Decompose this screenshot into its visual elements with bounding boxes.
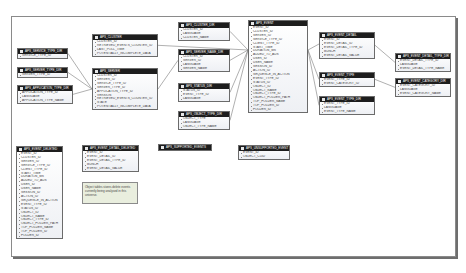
relationship-lines — [0, 0, 466, 273]
relationship-line — [308, 50, 319, 105]
table-icon — [251, 22, 254, 25]
table-icon — [20, 50, 23, 53]
relationship-line — [308, 50, 319, 79]
table-supported-events[interactable]: APS_SUPPORTED_EVENTS — [158, 144, 212, 151]
table-icon — [181, 24, 184, 27]
table-title: APS_UNSUPPORTED_EVENT — [246, 146, 288, 150]
relationship-line — [230, 31, 248, 50]
table-icon — [20, 69, 23, 72]
table-icon — [322, 74, 325, 77]
table-field[interactable]: LANGUAGE — [179, 97, 229, 101]
table-event-detail-type-dir[interactable]: APS_EVENT_DETAIL_TYPE_DIREVENT_DETAIL_TY… — [395, 53, 451, 72]
relationship-line — [158, 60, 178, 89]
table-event[interactable]: APS_EVENTEVENT_IDCLUSTER_IDSERVER_IDSERV… — [248, 20, 308, 113]
table-title: APS_EVENT_DELETED — [24, 147, 57, 151]
table-title: APS_CLUSTER_DIR — [186, 23, 215, 27]
table-icon — [95, 70, 98, 73]
table-title: APS_EVENT_DETAIL — [327, 33, 357, 37]
table-icon — [181, 113, 184, 116]
table-event-type-dir[interactable]: APS_EVENT_TYPE_DIREVENT_TYPE_IDLANGUAGEE… — [319, 96, 375, 115]
table-icon — [241, 147, 244, 150]
table-title: APS_OBJECT_TYPE_DIR — [186, 112, 222, 116]
table-title: APS_CLUSTER — [100, 35, 122, 39]
table-field[interactable]: SERVER_TYPE_ID — [18, 73, 67, 77]
table-title: APS_EVENT_TYPE — [327, 73, 354, 77]
table-title: APS_SERVER_NAME_DIR — [186, 50, 223, 54]
table-icon — [398, 55, 401, 58]
table-title: APS_EVENT — [256, 21, 274, 25]
table-icon — [322, 34, 325, 37]
table-icon — [181, 85, 184, 88]
table-title: APS_SERVER_TYPE_DIR — [25, 68, 61, 72]
table-title: APS_APPLICATION_TYPE_DIR — [25, 86, 69, 90]
table-status[interactable]: APS_STATUS_DIRSTATUS_IDEVENT_TYPE_IDLANG… — [178, 83, 230, 102]
table-field[interactable]: EVENT_CATEGORY_NAME — [396, 92, 450, 96]
table-field[interactable]: EVENT_DETAIL_TYPE_NAME — [396, 67, 450, 71]
relationship-line — [375, 45, 395, 62]
table-server-type[interactable]: APS_SERVER_TYPE_DIRSERVER_TYPE_ID — [17, 67, 68, 78]
table-cluster-dir[interactable]: APS_CLUSTER_DIRCLUSTER_IDLANGUAGECLUSTER… — [178, 22, 230, 41]
table-field[interactable]: CLUSTER_NAME — [179, 36, 229, 40]
table-cluster[interactable]: APS_CLUSTERCLUSTER_IDRETRIEVED_EVENTS_CO… — [92, 34, 158, 57]
table-icon — [161, 146, 164, 149]
table-field[interactable]: OBJECT_TYPE_NAME — [179, 125, 229, 129]
diagram-note: Object tables stores delete events curre… — [82, 182, 138, 204]
table-icon — [85, 147, 88, 150]
table-field[interactable]: POTENTIALLY_INCOMPLETE_DATA — [93, 105, 157, 109]
table-event-type[interactable]: APS_EVENT_TYPEEVENT_TYPE_IDEVENT_CATEGOR… — [319, 72, 375, 87]
table-icon — [20, 87, 23, 90]
relationship-line — [308, 44, 319, 50]
table-server[interactable]: APS_SERVERCLUSTER_IDSERVER_IDSERVICE_TYP… — [92, 68, 158, 110]
table-icon — [95, 36, 98, 39]
table-field[interactable]: EVENT_DETAIL_VALUE — [320, 54, 374, 58]
table-field[interactable]: POTENTIALLY_INCOMPLETE_DATA — [93, 52, 157, 56]
table-field[interactable]: EVENT_CATEGORY_ID — [320, 82, 374, 86]
relationship-line — [230, 50, 248, 60]
table-icon — [181, 51, 184, 54]
table-title: APS_SUPPORTED_EVENTS — [166, 145, 206, 149]
table-field[interactable]: APPLICATION_TYPE_NAME — [18, 99, 72, 103]
table-service-type[interactable]: APS_SERVICE_TYPE_DIRSERVICE_TYPE_ID — [17, 48, 68, 59]
relationship-line — [68, 53, 92, 89]
table-event-detail[interactable]: APS_EVENT_DETAILEVENT_IDEVENT_DETAIL_IDE… — [319, 32, 375, 59]
table-header[interactable]: APS_SUPPORTED_EVENTS — [159, 145, 211, 150]
table-server-name[interactable]: APS_SERVER_NAME_DIRCLUSTER_IDSERVER_IDLA… — [178, 49, 230, 72]
note-text: Object tables stores delete events curre… — [85, 185, 130, 197]
table-event-detail-deleted[interactable]: APS_EVENT_DETAIL_DELETEDEVENT_IDEVENT_DE… — [82, 145, 139, 172]
table-title: APS_EVENT_CATEGORY_DIR — [403, 79, 446, 83]
table-field[interactable]: SERVICE_TYPE_ID — [18, 54, 67, 58]
table-title: APS_EVENT_DETAIL_DELETED — [90, 146, 135, 150]
table-field[interactable]: OBJECT_CUID — [239, 155, 289, 159]
table-field[interactable]: FOLDER_ID — [249, 108, 307, 112]
table-object-type[interactable]: APS_OBJECT_TYPE_DIROBJECT_TYPELANGUAGEOB… — [178, 111, 230, 130]
table-title: APS_EVENT_TYPE_DIR — [327, 97, 361, 101]
table-icon — [322, 98, 325, 101]
table-title: APS_STATUS_DIR — [186, 84, 212, 88]
table-icon — [398, 80, 401, 83]
table-unsupported[interactable]: APS_UNSUPPORTED_EVENTEVENT_IDOBJECT_CUID — [238, 145, 290, 160]
table-field[interactable]: FOLDER_ID — [17, 234, 62, 238]
table-application-type[interactable]: APS_APPLICATION_TYPE_DIRAPPLICATION_TYPE… — [17, 85, 73, 104]
table-field[interactable]: SERVER_NAME — [179, 67, 229, 71]
table-title: APS_SERVER — [100, 69, 120, 73]
relationship-line — [73, 89, 92, 94]
table-field[interactable]: EVENT_TYPE_NAME — [320, 110, 374, 114]
table-field[interactable]: EVENT_DETAIL_VALUE — [83, 167, 138, 171]
table-title: APS_EVENT_DETAIL_TYPE_DIR — [403, 54, 449, 58]
relationship-line — [375, 79, 395, 87]
table-event-category-dir[interactable]: APS_EVENT_CATEGORY_DIREVENT_CATEGORY_IDL… — [395, 78, 451, 97]
table-title: APS_SERVICE_TYPE_DIR — [25, 49, 62, 53]
relationship-line — [230, 50, 248, 120]
table-icon — [19, 148, 22, 151]
table-event-deleted[interactable]: APS_EVENT_DELETEDEVENT_IDCLUSTER_IDSERVE… — [16, 146, 63, 239]
